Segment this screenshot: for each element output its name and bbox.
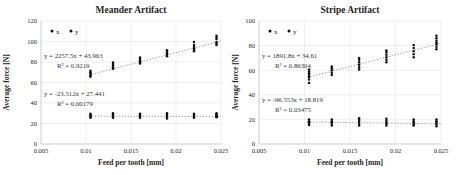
data-point-x: [385, 61, 388, 64]
data-point-x: [412, 56, 415, 59]
data-point-y: [308, 118, 311, 121]
y-axis-title: Average force [N]: [231, 54, 240, 110]
x-tick-label: 0.015: [343, 147, 358, 154]
y-tick-label: 60: [249, 67, 256, 74]
data-point-x: [412, 44, 415, 47]
data-point-x: [166, 49, 169, 52]
legend-label: y: [75, 28, 79, 36]
legend-label: x: [56, 28, 60, 36]
equation-text: y = 2257.5x + 43.963: [44, 52, 103, 59]
data-point-x: [193, 44, 196, 47]
chart-stripe-plot: 0204060801000.0050.010.0150.020.025Strip…: [229, 0, 458, 175]
data-point-x: [193, 41, 196, 44]
data-point-x: [385, 54, 388, 57]
x-tick-label: 0.015: [124, 147, 139, 154]
x-axis-title: Feed per tooth [mm]: [317, 158, 383, 167]
r-squared-text: R² = 0.03475: [275, 106, 311, 113]
data-point-x: [385, 49, 388, 52]
y-tick-label: 20: [249, 116, 256, 123]
data-point-x: [358, 61, 361, 64]
data-point-x: [435, 35, 438, 38]
data-point-x: [331, 65, 334, 68]
x-axis-title: Feed per tooth [mm]: [98, 158, 164, 167]
trendline: [307, 43, 441, 77]
x-tick-label: 0.025: [214, 147, 229, 154]
data-point-x: [435, 37, 438, 40]
data-point-x: [412, 47, 415, 50]
equation-text: y = -23.512x + 27.441: [44, 90, 105, 97]
chart-meander: 0204060801001200.0050.010.0150.020.025Me…: [0, 0, 229, 175]
x-tick-label: 0.01: [80, 147, 91, 154]
r-squared-text: R² = 0.9219: [57, 62, 90, 69]
equation-text: y = 1891.8x + 34.61: [262, 52, 317, 59]
trendline: [89, 41, 221, 75]
data-point-x: [385, 56, 388, 59]
data-point-x: [112, 61, 115, 64]
data-point-y: [139, 113, 142, 116]
data-point-x: [435, 39, 438, 42]
data-point-y: [112, 112, 115, 115]
chart-stripe: 0204060801000.0050.010.0150.020.025Strip…: [229, 0, 458, 175]
data-point-x: [215, 41, 218, 44]
y-tick-label: 80: [249, 42, 256, 49]
data-point-y: [412, 118, 415, 121]
chart-title: Meander Artifact: [96, 5, 168, 15]
legend-marker-icon: [51, 30, 54, 33]
chart-title: Stripe Artifact: [321, 5, 381, 15]
data-point-x: [308, 82, 311, 85]
data-point-y: [331, 118, 334, 121]
r-squared-text: R² = 0.86304: [275, 62, 311, 69]
data-point-x: [412, 53, 415, 56]
x-tick-label: 0.01: [299, 147, 310, 154]
data-point-x: [358, 63, 361, 66]
y-axis-title: Average force [N]: [2, 54, 11, 110]
figure-canvas: 0204060801001200.0050.010.0150.020.025Me…: [0, 0, 458, 175]
x-tick-label: 0.02: [170, 147, 181, 154]
data-point-x: [385, 58, 388, 61]
data-point-x: [331, 74, 334, 77]
data-point-x: [139, 56, 142, 59]
y-tick-label: 20: [31, 120, 38, 127]
data-point-y: [89, 113, 92, 116]
data-point-y: [215, 112, 218, 115]
y-tick-label: 80: [31, 58, 38, 65]
y-tick-label: 100: [27, 38, 37, 45]
legend-marker-icon: [70, 30, 73, 33]
legend-label: y: [293, 28, 297, 36]
x-tick-label: 0.02: [390, 147, 401, 154]
data-point-y: [435, 118, 438, 121]
x-tick-label: 0.005: [34, 147, 49, 154]
data-point-x: [358, 68, 361, 71]
equation-text: y = -96.553x + 18.819: [262, 96, 324, 103]
data-point-y: [385, 118, 388, 121]
data-point-x: [89, 69, 92, 72]
data-point-x: [308, 68, 311, 71]
legend-label: x: [274, 28, 278, 36]
data-point-x: [358, 57, 361, 60]
data-point-y: [193, 113, 196, 116]
y-tick-label: 40: [31, 99, 38, 106]
data-point-x: [435, 48, 438, 51]
legend-marker-icon: [269, 30, 272, 33]
data-point-x: [215, 35, 218, 38]
data-point-x: [435, 46, 438, 49]
legend-marker-icon: [288, 30, 291, 33]
chart-meander-plot: 0204060801001200.0050.010.0150.020.025Me…: [0, 0, 229, 175]
data-point-x: [412, 50, 415, 53]
r-squared-text: R² = 0.00179: [57, 100, 93, 107]
y-tick-label: 60: [31, 79, 38, 86]
data-point-y: [358, 117, 361, 120]
x-tick-label: 0.025: [434, 147, 449, 154]
y-tick-label: 40: [249, 91, 256, 98]
trendline: [307, 122, 441, 124]
y-tick-label: 120: [27, 17, 37, 24]
data-point-x: [331, 71, 334, 74]
data-point-x: [308, 78, 311, 81]
y-tick-label: 100: [245, 17, 255, 24]
data-point-x: [358, 66, 361, 69]
data-point-y: [166, 112, 169, 115]
x-tick-label: 0.005: [252, 147, 267, 154]
